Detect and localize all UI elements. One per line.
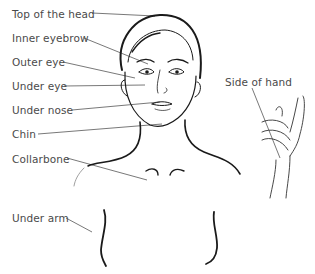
label-inner-eyebrow: Inner eyebrow (12, 32, 89, 44)
label-under-arm: Under arm (12, 212, 69, 224)
label-top-of-head: Top of the head (12, 8, 95, 20)
head-drawing (121, 15, 201, 126)
tapping-points-diagram: Top of the head Inner eyebrow Outer eye … (0, 0, 315, 274)
label-under-nose: Under nose (12, 104, 73, 116)
label-under-eye: Under eye (12, 80, 67, 92)
hand-drawing (262, 96, 304, 198)
leader-lines (38, 13, 280, 232)
label-collarbone: Collarbone (12, 153, 70, 165)
torso-drawing (74, 120, 240, 266)
label-chin: Chin (12, 128, 36, 140)
label-outer-eye: Outer eye (12, 56, 65, 68)
label-side-of-hand: Side of hand (225, 76, 292, 88)
